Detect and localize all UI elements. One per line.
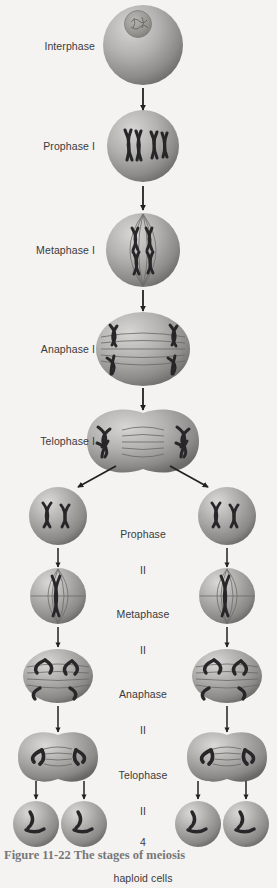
label-prophase-1: Prophase I	[0, 140, 95, 152]
cell-metaphase-1	[106, 213, 180, 287]
cell-prophase-2-left	[29, 487, 87, 545]
arrow-telophase1-to-prophase2-left	[78, 466, 116, 487]
label-haploid-count: 4	[93, 836, 193, 848]
figure-caption: Figure 11-22 The stages of meiosis	[4, 849, 274, 862]
label-metaphase-2-line2: II	[93, 644, 193, 656]
cell-haploid-1	[13, 801, 59, 847]
label-anaphase-2-line2: II	[93, 724, 193, 736]
label-telophase-2-line1: Telophase	[93, 769, 193, 781]
stage-interphase	[103, 5, 183, 85]
label-anaphase-1: Anaphase I	[0, 343, 95, 355]
stage-metaphase-1	[106, 213, 180, 287]
stage-prophase-1	[107, 110, 179, 182]
stage-anaphase-1	[96, 312, 190, 386]
label-haploid-text: haploid cells	[93, 872, 193, 884]
cell-haploid-4	[223, 801, 269, 847]
nucleus-icon	[125, 11, 152, 38]
stage-telophase-1	[87, 409, 199, 472]
label-anaphase-2-line1: Anaphase	[93, 688, 193, 700]
arrow-telophase1-to-prophase2-right	[170, 466, 208, 487]
cell-prophase-2-right	[198, 487, 256, 545]
label-interphase: Interphase	[0, 40, 95, 52]
label-prophase-2-line1: Prophase	[93, 528, 193, 540]
label-metaphase-1: Metaphase I	[0, 244, 95, 256]
label-telophase-1: Telophase I	[0, 435, 95, 447]
label-prophase-2-line2: II	[93, 564, 193, 576]
label-metaphase-2-line1: Metaphase	[93, 608, 193, 620]
cell-prophase-1	[107, 110, 179, 182]
